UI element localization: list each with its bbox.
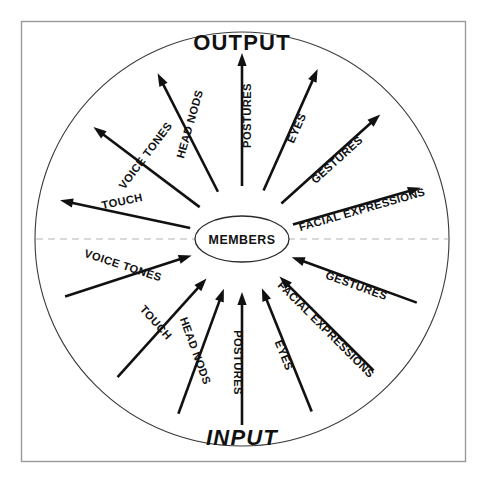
output-label: OUTPUT bbox=[193, 30, 291, 55]
figure-canvas: TOUCHVOICE TONESHEAD NODSPOSTURESEYESGES… bbox=[0, 0, 483, 477]
ray-label: POSTURES bbox=[232, 330, 244, 395]
input-label: INPUT bbox=[206, 425, 278, 450]
ray-label: POSTURES bbox=[241, 83, 253, 148]
members-hub-label: MEMBERS bbox=[209, 233, 276, 247]
radial-communication-diagram: TOUCHVOICE TONESHEAD NODSPOSTURESEYESGES… bbox=[0, 0, 483, 477]
